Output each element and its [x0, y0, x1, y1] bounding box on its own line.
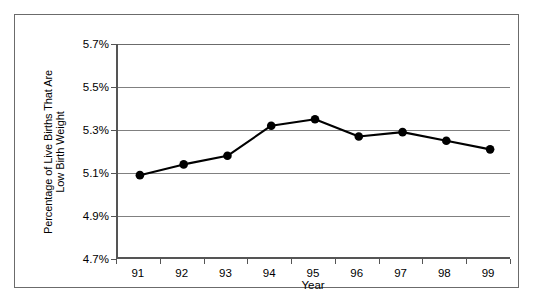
x-axis-tick-mark — [335, 259, 336, 264]
y-axis-tick-label: 4.7% — [49, 253, 109, 265]
y-axis-tick-label: 5.3% — [49, 124, 109, 136]
x-axis-tick-label: 97 — [381, 267, 421, 279]
x-axis-title: Year — [116, 279, 510, 291]
x-axis-tick-label: 98 — [424, 267, 464, 279]
x-axis-tick-label: 94 — [249, 267, 289, 279]
series-data-point — [179, 160, 188, 169]
x-axis-tick-mark — [204, 259, 205, 264]
y-axis-tick-label: 5.5% — [49, 81, 109, 93]
series-data-point — [223, 152, 232, 161]
series-data-point — [267, 121, 276, 130]
x-axis-tick-label: 95 — [293, 267, 333, 279]
chart-frame: Percentage of Live Births That Are Low B… — [14, 14, 519, 288]
series-data-point — [311, 115, 320, 124]
series-marker-group — [136, 115, 495, 180]
series-data-point — [354, 132, 363, 141]
x-axis-tick-label: 99 — [468, 267, 508, 279]
x-axis-tick-label: 91 — [118, 267, 158, 279]
plot-area — [116, 44, 510, 259]
x-axis-tick-label: 92 — [162, 267, 202, 279]
series-data-point — [136, 171, 145, 180]
y-axis-tick-label: 5.1% — [49, 167, 109, 179]
y-axis-tick-label: 4.9% — [49, 210, 109, 222]
x-axis-tick-mark — [379, 259, 380, 264]
x-axis-tick-mark — [466, 259, 467, 264]
x-axis-tick-label: 93 — [205, 267, 245, 279]
series-line-low-birth-weight — [140, 119, 490, 175]
x-axis-tick-mark — [422, 259, 423, 264]
x-axis-tick-mark — [291, 259, 292, 264]
series-data-point — [486, 145, 495, 154]
x-axis-tick-mark — [116, 259, 117, 264]
y-axis-tick-label: 5.7% — [49, 38, 109, 50]
series-data-point — [398, 128, 407, 137]
plot-inner — [118, 44, 510, 257]
x-axis-tick-mark — [510, 259, 511, 264]
series-data-point — [442, 136, 451, 145]
y-axis-title: Percentage of Live Births That Are Low B… — [29, 15, 79, 289]
x-axis-tick-mark — [247, 259, 248, 264]
x-axis-tick-mark — [160, 259, 161, 264]
series-layer — [118, 44, 512, 259]
x-axis-tick-label: 96 — [337, 267, 377, 279]
